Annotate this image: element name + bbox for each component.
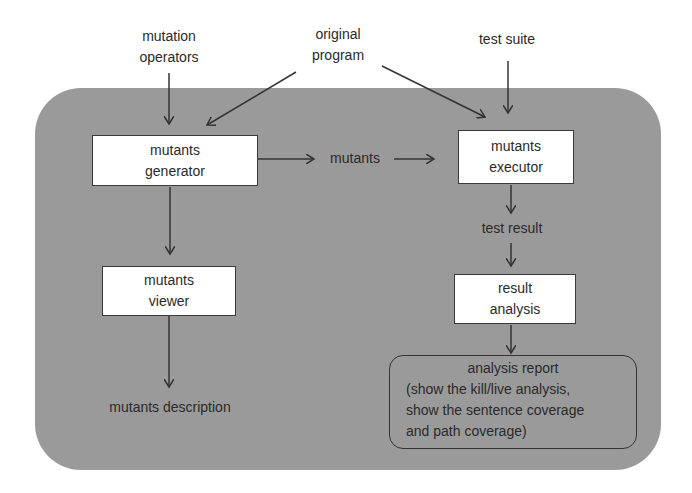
arrow-program-to-executor	[382, 66, 485, 117]
node-label-line: generator	[145, 161, 205, 182]
label-line: mutation	[131, 26, 207, 47]
edge-label-mutants: mutants	[318, 148, 392, 169]
report-line: show the sentence coverage	[406, 400, 636, 421]
input-original-program: original program	[303, 24, 373, 66]
node-label-line: result	[498, 278, 532, 299]
node-mutants-viewer: mutants viewer	[102, 266, 236, 316]
label-line: program	[303, 45, 373, 66]
node-label-line: analysis	[490, 299, 541, 320]
arrow-program-to-generator	[207, 72, 296, 125]
node-label-line: mutants	[150, 140, 200, 161]
edge-label-test-result: test result	[468, 218, 556, 239]
output-mutants-description: mutants description	[88, 397, 252, 418]
node-mutants-executor: mutants executor	[458, 130, 574, 184]
output-analysis-report: analysis report (show the kill/live anal…	[389, 355, 637, 449]
node-label-line: mutants	[144, 270, 194, 291]
report-line: and path coverage)	[406, 421, 636, 442]
input-test-suite: test suite	[462, 29, 552, 50]
node-mutants-generator: mutants generator	[92, 135, 258, 186]
label-line: original	[303, 24, 373, 45]
report-line: (show the kill/live analysis,	[406, 379, 636, 400]
node-label-line: executor	[489, 157, 543, 178]
node-label-line: viewer	[149, 291, 189, 312]
label-line: operators	[131, 47, 207, 68]
node-label-line: mutants	[491, 136, 541, 157]
node-result-analysis: result analysis	[454, 274, 576, 324]
input-mutation-operators: mutation operators	[131, 26, 207, 68]
report-title: analysis report	[406, 358, 636, 379]
